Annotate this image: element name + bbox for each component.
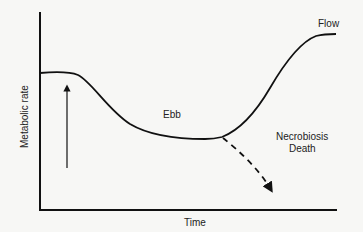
x-axis-label: Time [184,217,206,228]
metabolic-curve [40,34,336,139]
ebb-label: Ebb [163,109,181,120]
ebb-flow-diagram: Metabolic rate Time Ebb Flow Necrobiosis… [0,0,363,232]
death-branch-dashed [223,138,270,188]
flow-label: Flow [318,18,340,29]
death-label: Death [289,143,316,154]
y-axis-label: Metabolic rate [19,85,30,148]
necrobiosis-label: Necrobiosis [276,131,328,142]
